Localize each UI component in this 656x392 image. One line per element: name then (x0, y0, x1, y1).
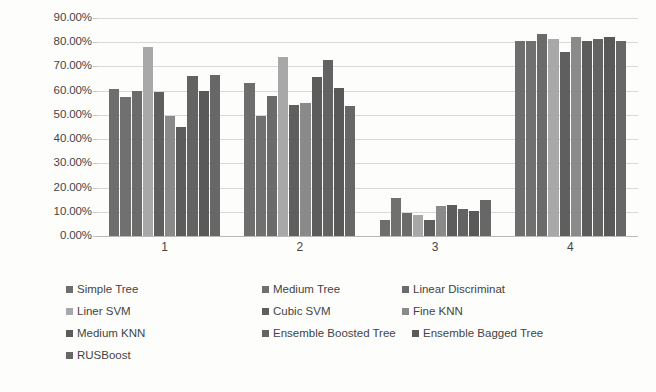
legend-row: Simple TreeMedium TreeLinear Discriminat (66, 282, 611, 298)
legend-item-label: Medium KNN (77, 326, 145, 340)
bar-group (97, 18, 232, 236)
legend-swatch-icon (66, 308, 73, 315)
bar (132, 91, 142, 236)
legend-item[interactable]: Fine KNN (402, 304, 463, 318)
y-axis-tick-label: 0.00% (18, 230, 92, 242)
bar (537, 34, 547, 236)
bar (571, 37, 581, 236)
bar (582, 41, 592, 236)
legend-item-label: Medium Tree (273, 282, 340, 296)
legend-item-label: Ensemble Boosted Tree (273, 326, 396, 340)
bar (424, 220, 434, 236)
bar (458, 209, 468, 236)
x-axis: 1234 (97, 240, 638, 262)
bar (560, 52, 570, 236)
legend-item[interactable]: Ensemble Bagged Tree (412, 326, 543, 340)
legend-item[interactable]: Cubic SVM (262, 304, 402, 318)
bar (109, 89, 119, 236)
y-axis-tick-label: 10.00% (18, 206, 92, 218)
legend-swatch-icon (262, 330, 269, 337)
bar-chart: 0.00%10.00%20.00%30.00%40.00%50.00%60.00… (0, 0, 656, 392)
bar (154, 92, 164, 236)
legend-swatch-icon (66, 286, 73, 293)
bar (165, 116, 175, 236)
bar (413, 215, 423, 236)
bar (469, 211, 479, 236)
legend-item-label: Liner SVM (77, 304, 131, 318)
legend-item-label: Cubic SVM (273, 304, 331, 318)
legend-swatch-icon (66, 352, 73, 359)
bar (593, 39, 603, 236)
y-axis-tick-mark (93, 236, 97, 237)
bar (143, 47, 153, 236)
y-axis-tick-label: 30.00% (18, 158, 92, 170)
x-axis-tick-label: 4 (503, 240, 638, 262)
bar (436, 206, 446, 236)
bar (199, 91, 209, 236)
x-axis-tick-label: 2 (232, 240, 367, 262)
bar (604, 37, 614, 236)
bar (391, 198, 401, 236)
bar-group (368, 18, 503, 236)
legend-item[interactable]: Ensemble Boosted Tree (262, 326, 412, 340)
bar (120, 97, 130, 236)
y-axis-tick-label: 60.00% (18, 85, 92, 97)
legend-swatch-icon (402, 286, 409, 293)
x-axis-tick-label: 3 (368, 240, 503, 262)
bar (323, 60, 333, 236)
bar (334, 88, 344, 236)
legend-item[interactable]: Simple Tree (66, 282, 262, 296)
bar (447, 205, 457, 236)
legend-item-label: Ensemble Bagged Tree (423, 326, 543, 340)
bar-group (232, 18, 367, 236)
legend-item[interactable]: RUSBoost (66, 348, 262, 362)
bar (256, 116, 266, 236)
y-axis-tick-label: 80.00% (18, 36, 92, 48)
legend-swatch-icon (66, 330, 73, 337)
bar (548, 39, 558, 236)
bar (300, 103, 310, 236)
bar (616, 41, 626, 236)
bar (278, 57, 288, 236)
legend-swatch-icon (262, 286, 269, 293)
legend-item-label: RUSBoost (77, 348, 131, 362)
y-axis-tick-label: 70.00% (18, 61, 92, 73)
legend-item[interactable]: Linear Discriminat (402, 282, 505, 296)
bar-group-bars (109, 18, 220, 236)
bar-groups (97, 18, 638, 236)
legend-row: RUSBoost (66, 348, 611, 364)
bar (210, 75, 220, 236)
x-axis-tick-label: 1 (97, 240, 232, 262)
legend-item[interactable]: Medium Tree (262, 282, 402, 296)
bar-group (503, 18, 638, 236)
bar (526, 41, 536, 236)
bar (267, 96, 277, 236)
legend: Simple TreeMedium TreeLinear Discriminat… (66, 282, 611, 370)
bar (345, 106, 355, 236)
legend-swatch-icon (412, 330, 419, 337)
legend-row: Liner SVMCubic SVMFine KNN (66, 304, 611, 320)
legend-swatch-icon (402, 308, 409, 315)
y-axis: 0.00%10.00%20.00%30.00%40.00%50.00%60.00… (18, 18, 92, 236)
bar-group-bars (244, 18, 355, 236)
bar (187, 76, 197, 236)
y-axis-tick-label: 90.00% (18, 12, 92, 24)
legend-item-label: Fine KNN (413, 304, 463, 318)
legend-item[interactable]: Liner SVM (66, 304, 262, 318)
bar-group-bars (515, 18, 626, 236)
bar (312, 77, 322, 236)
plot-area: 0.00%10.00%20.00%30.00%40.00%50.00%60.00… (0, 0, 656, 268)
bar (380, 220, 390, 236)
y-axis-tick-label: 40.00% (18, 133, 92, 145)
bar (244, 83, 254, 236)
legend-swatch-icon (262, 308, 269, 315)
y-axis-tick-label: 50.00% (18, 109, 92, 121)
legend-item[interactable]: Medium KNN (66, 326, 262, 340)
legend-item-label: Simple Tree (77, 282, 138, 296)
bar (515, 41, 525, 236)
legend-row: Medium KNNEnsemble Boosted TreeEnsemble … (66, 326, 611, 342)
bar (480, 200, 490, 236)
legend-item-label: Linear Discriminat (413, 282, 505, 296)
bar (402, 213, 412, 236)
bar (176, 127, 186, 236)
